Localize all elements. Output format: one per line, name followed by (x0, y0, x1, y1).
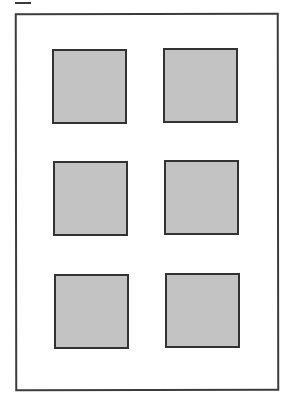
header-dash-mark (15, 2, 31, 4)
grid-tile-r3-c1 (54, 274, 129, 349)
grid-tile-r1-c2 (163, 48, 238, 123)
grid-tile-r1-c1 (52, 49, 127, 124)
grid-tile-r2-c2 (164, 160, 239, 235)
grid-tile-r3-c2 (165, 273, 240, 348)
grid-tile-r2-c1 (53, 161, 128, 236)
